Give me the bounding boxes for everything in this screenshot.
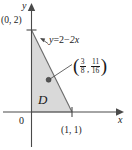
equation-linear-term: 2x xyxy=(70,34,79,45)
centroid-comma: , xyxy=(86,65,90,74)
centroid-open-paren: ( xyxy=(73,58,79,74)
centroid-x-fraction: 3 8 xyxy=(79,58,86,75)
x-intercept-point-label: (1, 1) xyxy=(61,126,82,136)
centroid-leader-line xyxy=(50,65,72,80)
y-intercept-point-label: (0, 2) xyxy=(1,16,22,26)
origin-label: 0 xyxy=(19,116,24,126)
y-axis-label: y xyxy=(22,1,26,11)
centroid-x-numerator: 3 xyxy=(80,58,86,66)
y-axis-arrowhead xyxy=(28,3,35,11)
math-figure-region-d: y x (0, 2) 0 (1, 1) D y=2−2x ( 3 8 , 11 … xyxy=(0,0,132,150)
centroid-coordinate-label: ( 3 8 , 11 16 ) xyxy=(73,58,107,75)
region-d-label: D xyxy=(38,93,47,106)
centroid-y-numerator: 11 xyxy=(91,58,100,66)
line-equation-label: y=2−2x xyxy=(49,35,79,45)
equation-leader-arrowhead xyxy=(40,38,45,42)
centroid-close-paren: ) xyxy=(101,58,107,74)
x-axis-label: x xyxy=(118,115,122,125)
centroid-y-denominator: 16 xyxy=(91,66,101,75)
centroid-x-denominator: 8 xyxy=(80,66,86,75)
centroid-point-marker xyxy=(46,77,51,82)
centroid-y-fraction: 11 16 xyxy=(90,58,101,75)
